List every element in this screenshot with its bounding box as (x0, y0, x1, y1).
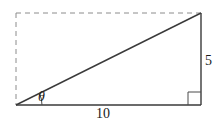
right-angle-marker (188, 92, 201, 105)
triangle-figure: 10 5 θ (0, 0, 221, 124)
figure-canvas (0, 0, 221, 124)
height-length-label: 5 (205, 54, 212, 68)
angle-theta-label: θ (38, 90, 45, 104)
base-length-label: 10 (96, 107, 110, 121)
